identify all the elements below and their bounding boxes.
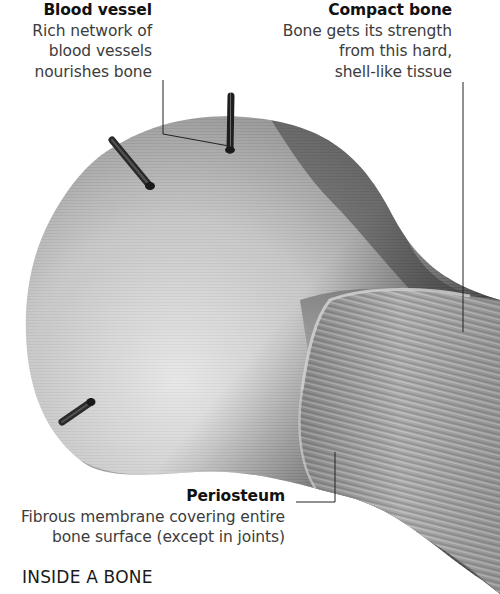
periosteum-desc-line: Fibrous membrane covering entire bbox=[21, 507, 285, 528]
periosteum-desc-line: bone surface (except in joints) bbox=[21, 527, 285, 548]
periosteum-title: Periosteum bbox=[21, 486, 285, 507]
compact-bone-desc-line: shell-like tissue bbox=[283, 62, 452, 83]
compact-bone-cutaway bbox=[299, 289, 500, 594]
compact-bone-title: Compact bone bbox=[283, 0, 452, 21]
blood-vessel-desc-line: Rich network of bbox=[32, 21, 152, 42]
compact-bone-desc-line: Bone gets its strength bbox=[283, 21, 452, 42]
periosteum-label: Periosteum Fibrous membrane covering ent… bbox=[21, 486, 285, 548]
blood-vessel-desc-line: nourishes bone bbox=[32, 62, 152, 83]
blood-vessel-title: Blood vessel bbox=[32, 0, 152, 21]
blood-vessel-label: Blood vessel Rich network of blood vesse… bbox=[32, 0, 152, 82]
section-heading: INSIDE A BONE bbox=[22, 567, 153, 587]
blood-vessel-desc-line: blood vessels bbox=[32, 41, 152, 62]
compact-bone-label: Compact bone Bone gets its strength from… bbox=[283, 0, 452, 82]
compact-bone-desc-line: from this hard, bbox=[283, 41, 452, 62]
